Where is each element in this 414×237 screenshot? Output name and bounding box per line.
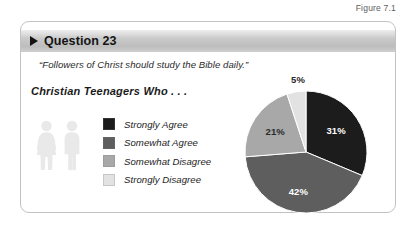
- question-statement: “Followers of Christ should study the Bi…: [39, 59, 248, 70]
- pie-slice-label-strongly-disagree: 5%: [291, 74, 305, 85]
- legend-label: Strongly Agree: [124, 119, 188, 130]
- triangle-right-icon: [30, 36, 38, 46]
- figure-caption: Figure 7.1: [356, 3, 396, 13]
- question-title: Question 23: [44, 34, 117, 48]
- legend-swatch-somewhat-disagree: [103, 155, 115, 167]
- chart-legend: Strongly Agree Somewhat Agree Somewhat D…: [103, 118, 211, 186]
- legend-item[interactable]: Strongly Disagree: [103, 174, 211, 186]
- legend-label: Somewhat Disagree: [124, 156, 211, 167]
- legend-item[interactable]: Somewhat Disagree: [103, 155, 211, 167]
- pie-chart-svg: [244, 90, 368, 214]
- legend-item[interactable]: Somewhat Agree: [103, 137, 211, 149]
- two-people-icon: [28, 117, 90, 179]
- figure-root: Figure 7.1 Question 23 “Followers of Chr…: [0, 0, 414, 237]
- legend-swatch-somewhat-agree: [103, 137, 115, 149]
- question-heading: Question 23: [30, 32, 117, 50]
- legend-swatch-strongly-agree: [103, 118, 115, 130]
- pie-chart: 31% 42% 21%: [244, 90, 368, 214]
- legend-label: Strongly Disagree: [124, 174, 201, 185]
- legend-label: Somewhat Agree: [124, 137, 198, 148]
- chart-subtitle: Christian Teenagers Who . . .: [31, 85, 187, 97]
- legend-swatch-strongly-disagree: [103, 174, 115, 186]
- legend-item[interactable]: Strongly Agree: [103, 118, 211, 130]
